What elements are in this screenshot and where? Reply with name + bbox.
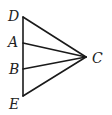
segment-DC: [23, 17, 86, 57]
label-B: B: [8, 61, 19, 77]
segment-AC: [23, 43, 86, 57]
label-D: D: [7, 8, 19, 24]
geometry-diagram: D A B E C: [0, 0, 112, 115]
label-E: E: [8, 96, 19, 112]
label-C: C: [92, 50, 103, 66]
label-A: A: [6, 34, 18, 50]
